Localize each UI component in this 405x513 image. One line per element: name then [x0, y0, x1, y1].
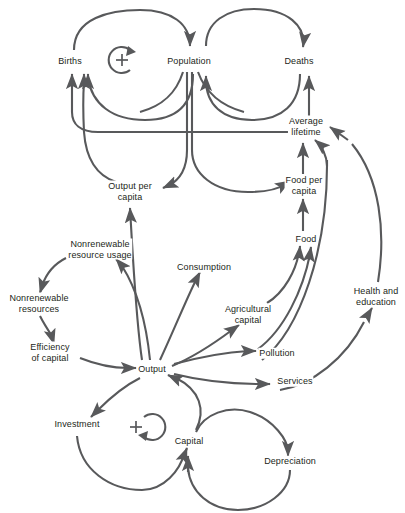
link-depreciation-to-capital [188, 468, 290, 510]
node-deaths: Deaths [283, 56, 314, 67]
link-agricultural-capital-to-food-head [299, 246, 300, 258]
link-output-to-nonrenewable-usage-head [116, 259, 124, 268]
node-nonrenewable-resources: Nonrenewable resources [8, 293, 69, 314]
node-investment: Investment [53, 419, 100, 430]
population-loop-marker [109, 46, 136, 73]
link-population-branch-right [198, 72, 244, 112]
node-consumption: Consumption [176, 262, 232, 273]
node-services: Services [276, 376, 313, 387]
link-output-to-services [174, 374, 262, 384]
link-output-to-consumption-head [195, 272, 200, 282]
link-deaths-to-population [206, 74, 300, 120]
link-capital-to-output [176, 378, 201, 430]
link-nonrenewable-usage-to-resources [42, 258, 66, 286]
link-output-to-investment-head [91, 409, 99, 417]
link-health-education-to-average-lifetime-head [330, 127, 348, 140]
link-nonrenewable-resources-to-efficiency [40, 316, 52, 336]
link-output-to-pollution [174, 351, 248, 364]
link-nonrenewable-usage-to-resources-head [40, 283, 43, 293]
link-output-to-agricultural-capital [172, 330, 232, 366]
link-births-to-population [74, 10, 190, 50]
link-pollution-to-average-lifetime-head [315, 140, 327, 166]
link-population-to-output-per-capita-head [163, 184, 172, 188]
node-health-education: Health and education [353, 286, 400, 307]
link-efficiency-to-output [80, 358, 128, 368]
link-capital-to-depreciation [196, 410, 288, 452]
node-births: Births [57, 56, 83, 67]
link-population-branch-left [140, 72, 183, 112]
node-average-lifetime: Average lifetime [288, 116, 324, 137]
causal-loop-diagram: Births Population Deaths Average lifetim… [0, 0, 405, 513]
link-pollution-to-food-head [309, 247, 311, 260]
node-capital: Capital [174, 436, 205, 447]
node-food-per-capita: Food per capita [285, 175, 324, 196]
capital-loop-marker [130, 414, 165, 441]
node-output-per-capita: Output per capita [107, 181, 153, 202]
link-services-to-health-education-head [366, 308, 372, 318]
node-depreciation: Depreciation [263, 456, 317, 467]
node-pollution: Pollution [258, 348, 295, 359]
link-health-education-to-average-lifetime [352, 144, 381, 282]
node-nonrenewable-usage: Nonrenewable resource usage [67, 239, 132, 260]
link-population-to-output-per-capita [168, 72, 187, 186]
link-output-to-agricultural-capital-head [229, 325, 239, 332]
link-population-to-deaths [206, 9, 303, 47]
link-output-to-investment [98, 378, 140, 410]
node-population: Population [166, 56, 212, 67]
node-food: Food [295, 234, 318, 245]
link-investment-to-capital-head [183, 448, 187, 458]
link-output-to-consumption [160, 280, 196, 360]
link-population-to-births [88, 74, 193, 120]
link-investment-to-capital [77, 436, 184, 490]
node-output: Output [137, 364, 167, 375]
link-agricultural-capital-to-food [267, 252, 299, 303]
node-efficiency-of-capital: Efficiency of capital [29, 342, 70, 363]
node-agricultural-capital: Agricultural capital [224, 304, 272, 325]
